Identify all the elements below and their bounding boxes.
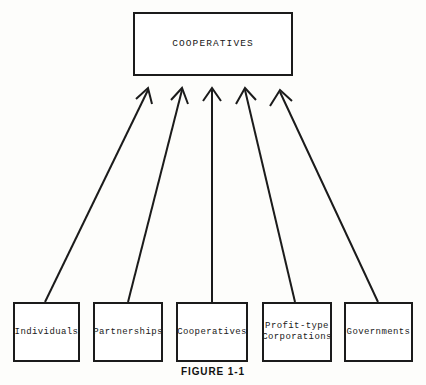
node-governments: Governments bbox=[344, 302, 413, 362]
node-label-cooperatives-top: COOPERATIVES bbox=[172, 38, 254, 49]
connector-line-profit-type-corporations bbox=[245, 90, 295, 302]
node-individuals: Individuals bbox=[13, 302, 80, 362]
node-profit-type-corporations: Profit-type Corporations bbox=[262, 302, 332, 362]
node-partnerships: Partnerships bbox=[93, 302, 163, 362]
node-label-governments: Governments bbox=[347, 327, 411, 338]
node-label-profit-type-corporations: Profit-type Corporations bbox=[262, 321, 332, 342]
figure-caption: FIGURE 1-1 bbox=[0, 366, 426, 377]
node-label-individuals: Individuals bbox=[15, 327, 79, 338]
figure-diagram: COOPERATIVES Individuals Partnerships Co… bbox=[0, 0, 426, 385]
connector-line-partnerships bbox=[128, 90, 182, 302]
connector-line-governments bbox=[280, 92, 378, 302]
node-label-cooperatives: Cooperatives bbox=[177, 327, 247, 338]
node-label-partnerships: Partnerships bbox=[93, 327, 163, 338]
connector-line-individuals bbox=[45, 90, 148, 302]
node-cooperatives: Cooperatives bbox=[176, 302, 248, 362]
node-cooperatives-top: COOPERATIVES bbox=[133, 12, 293, 76]
